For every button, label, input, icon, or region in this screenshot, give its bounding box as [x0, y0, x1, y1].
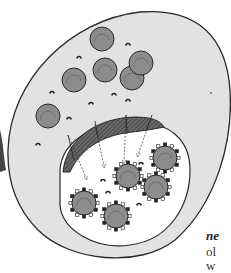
small-dot — [210, 92, 212, 94]
caption-fragment-2: ol — [206, 245, 216, 258]
granule — [93, 58, 117, 82]
shadow-edge — [0, 130, 6, 172]
granule — [129, 51, 153, 75]
granule — [36, 104, 60, 128]
granule — [62, 68, 86, 92]
granule — [90, 27, 114, 51]
caption-fragment-1: ne — [206, 229, 219, 242]
caption-fragment-3: w — [206, 259, 215, 272]
